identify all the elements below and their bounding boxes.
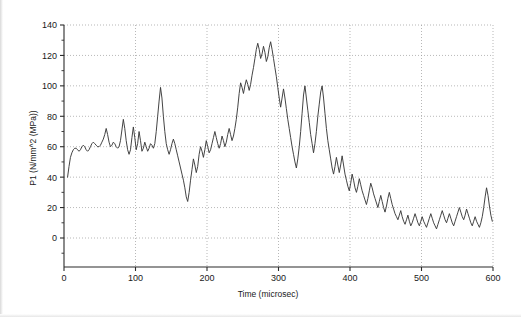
y-axis-ticks xyxy=(60,25,64,253)
chart-figure: 020406080100120140 0100200300400500600 T… xyxy=(0,0,521,317)
x-tick-label: 0 xyxy=(61,273,66,283)
x-axis-tick-labels: 0100200300400500600 xyxy=(61,273,500,283)
y-tick-label: 100 xyxy=(42,81,57,91)
y-tick-label: 140 xyxy=(42,20,57,30)
horizontal-gridlines xyxy=(64,25,493,238)
y-axis-title: P1 (N/mm^2 (MPa)) xyxy=(28,110,38,185)
line-chart: 020406080100120140 0100200300400500600 T… xyxy=(0,0,521,317)
x-tick-label: 400 xyxy=(342,273,357,283)
y-tick-label: 40 xyxy=(47,173,57,183)
y-tick-label: 120 xyxy=(42,51,57,61)
axes xyxy=(60,25,493,271)
data-series-p1 xyxy=(68,42,493,229)
y-tick-label: 20 xyxy=(47,203,57,213)
x-axis-ticks xyxy=(64,267,493,271)
x-axis-title: Time (microsec) xyxy=(238,289,299,299)
x-tick-label: 500 xyxy=(414,273,429,283)
y-tick-label: 0 xyxy=(52,233,57,243)
y-axis-tick-labels: 020406080100120140 xyxy=(42,20,57,243)
x-tick-label: 600 xyxy=(485,273,500,283)
gridlines xyxy=(64,25,493,267)
x-tick-label: 200 xyxy=(199,273,214,283)
x-tick-label: 300 xyxy=(271,273,286,283)
x-tick-label: 100 xyxy=(128,273,143,283)
y-tick-label: 60 xyxy=(47,142,57,152)
y-tick-label: 80 xyxy=(47,112,57,122)
